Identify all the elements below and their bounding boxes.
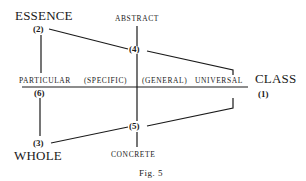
class-label: CLASS xyxy=(255,72,296,85)
particular-label: PARTICULAR xyxy=(19,77,71,85)
node-1: (1) xyxy=(258,90,269,99)
abstract-label: ABSTRACT xyxy=(115,15,159,23)
general-label: (GENERAL) xyxy=(142,77,187,85)
node-2: (2) xyxy=(33,25,44,34)
abstract-universal-line xyxy=(147,51,233,75)
concrete-label: CONCRETE xyxy=(111,151,155,159)
node-3: (3) xyxy=(33,139,44,148)
universal-label: UNIVERSAL xyxy=(195,77,243,85)
figure-caption: Fig. 5 xyxy=(139,169,163,178)
whole-concrete-line xyxy=(51,127,128,143)
node-6: (6) xyxy=(34,89,45,98)
essence-label: ESSENCE xyxy=(15,9,73,22)
node-4: (4) xyxy=(129,45,140,54)
essence-abstract-line xyxy=(49,29,128,49)
node-5: (5) xyxy=(129,122,140,131)
whole-label: WHOLE xyxy=(14,149,62,162)
concrete-class-line xyxy=(147,98,233,126)
specific-label: (SPECIFIC) xyxy=(84,77,127,85)
